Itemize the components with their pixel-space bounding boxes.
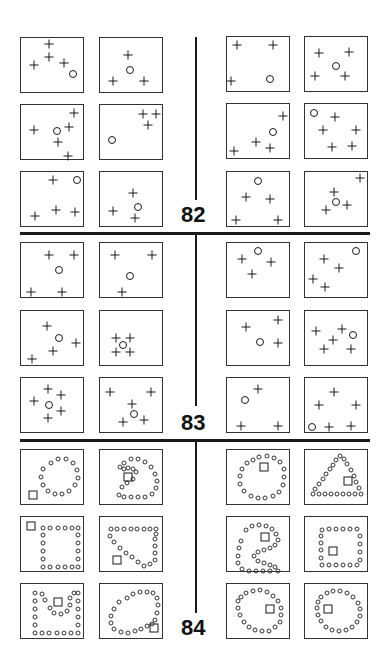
cross-icon: [118, 288, 127, 297]
small-circle-dot-icon: [270, 527, 275, 532]
panel-right: [226, 516, 290, 572]
circle-icon: [256, 338, 264, 346]
cross-icon: [72, 339, 81, 348]
cross-icon: [352, 126, 361, 135]
small-circle-dot-icon: [138, 590, 143, 595]
square-icon: [150, 624, 159, 633]
cross-icon: [237, 422, 246, 431]
circle-icon: [269, 128, 277, 136]
small-circle-dot-icon: [154, 486, 159, 491]
small-circle-dot-icon: [67, 489, 72, 494]
panel-left: [20, 37, 84, 93]
small-circle-dot-icon: [323, 492, 328, 497]
small-circle-dot-icon: [256, 550, 261, 555]
small-circle-dot-icon: [334, 458, 339, 463]
small-circle-dot-icon: [337, 629, 342, 634]
cross-icon: [106, 388, 115, 397]
square-icon: [324, 605, 333, 614]
small-circle-dot-icon: [73, 483, 78, 488]
panel-left: [99, 516, 163, 572]
cross-icon: [131, 214, 140, 223]
panel-right: [226, 377, 290, 433]
small-circle-dot-icon: [142, 564, 147, 569]
small-circle-dot-icon: [260, 629, 265, 634]
panel-right: [304, 377, 368, 433]
small-circle-dot-icon: [317, 482, 322, 487]
small-circle-dot-icon: [258, 588, 263, 593]
small-circle-dot-icon: [319, 534, 324, 539]
cross-icon: [267, 258, 276, 267]
panel-left: [20, 583, 84, 639]
small-circle-dot-icon: [244, 591, 249, 596]
cross-icon: [30, 397, 39, 406]
panel-right: [304, 103, 368, 159]
panel-left: [20, 171, 84, 227]
small-circle-dot-icon: [319, 556, 324, 561]
small-circle-dot-icon: [321, 477, 326, 482]
small-circle-dot-icon: [268, 569, 273, 574]
cross-icon: [49, 176, 58, 185]
small-circle-dot-icon: [108, 534, 113, 539]
small-circle-dot-icon: [68, 596, 73, 601]
small-circle-dot-icon: [355, 527, 360, 532]
small-circle-dot-icon: [155, 596, 160, 601]
cross-icon: [49, 347, 58, 356]
small-circle-dot-icon: [124, 551, 129, 556]
small-circle-dot-icon: [33, 599, 38, 604]
cross-icon: [328, 143, 337, 152]
small-circle-dot-icon: [143, 495, 148, 500]
circle-icon: [332, 198, 340, 206]
small-circle-dot-icon: [334, 527, 339, 532]
small-circle-dot-icon: [120, 485, 125, 490]
cross-icon: [320, 255, 329, 264]
small-circle-dot-icon: [109, 614, 114, 619]
small-circle-dot-icon: [56, 526, 61, 531]
cross-icon: [45, 251, 54, 260]
cross-icon: [65, 123, 74, 132]
cross-icon: [57, 391, 66, 400]
cross-icon: [335, 264, 344, 273]
small-circle-dot-icon: [109, 621, 114, 626]
small-circle-dot-icon: [236, 561, 241, 566]
small-circle-dot-icon: [329, 492, 334, 497]
small-circle-dot-icon: [349, 468, 354, 473]
cross-icon: [345, 48, 354, 57]
circle-icon: [254, 177, 262, 185]
cross-icon: [129, 189, 138, 198]
small-circle-dot-icon: [274, 532, 279, 537]
cross-icon: [44, 414, 53, 423]
small-circle-dot-icon: [153, 544, 158, 549]
small-circle-dot-icon: [331, 589, 336, 594]
circle-icon: [126, 272, 134, 280]
panel-left: [20, 310, 84, 366]
small-circle-dot-icon: [239, 539, 244, 544]
small-circle-dot-icon: [47, 631, 52, 636]
small-circle-dot-icon: [136, 560, 141, 565]
small-circle-dot-icon: [348, 527, 353, 532]
cross-icon: [126, 348, 135, 357]
cross-icon: [322, 206, 331, 215]
small-circle-dot-icon: [319, 548, 324, 553]
small-circle-dot-icon: [48, 565, 53, 570]
cross-icon: [112, 334, 121, 343]
circle-icon: [310, 109, 318, 117]
cross-icon: [242, 193, 251, 202]
small-circle-dot-icon: [153, 472, 158, 477]
small-circle-dot-icon: [242, 620, 247, 625]
cross-icon: [109, 207, 118, 216]
circle-icon: [254, 247, 262, 255]
small-circle-dot-icon: [56, 457, 61, 462]
small-circle-dot-icon: [315, 606, 320, 611]
small-circle-dot-icon: [46, 489, 51, 494]
small-circle-dot-icon: [109, 527, 114, 532]
small-circle-dot-icon: [145, 590, 150, 595]
small-circle-dot-icon: [249, 494, 254, 499]
small-circle-dot-icon: [277, 490, 282, 495]
small-circle-dot-icon: [358, 534, 363, 539]
circle-icon: [119, 341, 127, 349]
cross-icon: [45, 40, 54, 49]
small-circle-dot-icon: [237, 546, 242, 551]
circle-icon: [308, 423, 316, 431]
small-circle-dot-icon: [256, 496, 261, 501]
square-icon: [27, 522, 36, 531]
